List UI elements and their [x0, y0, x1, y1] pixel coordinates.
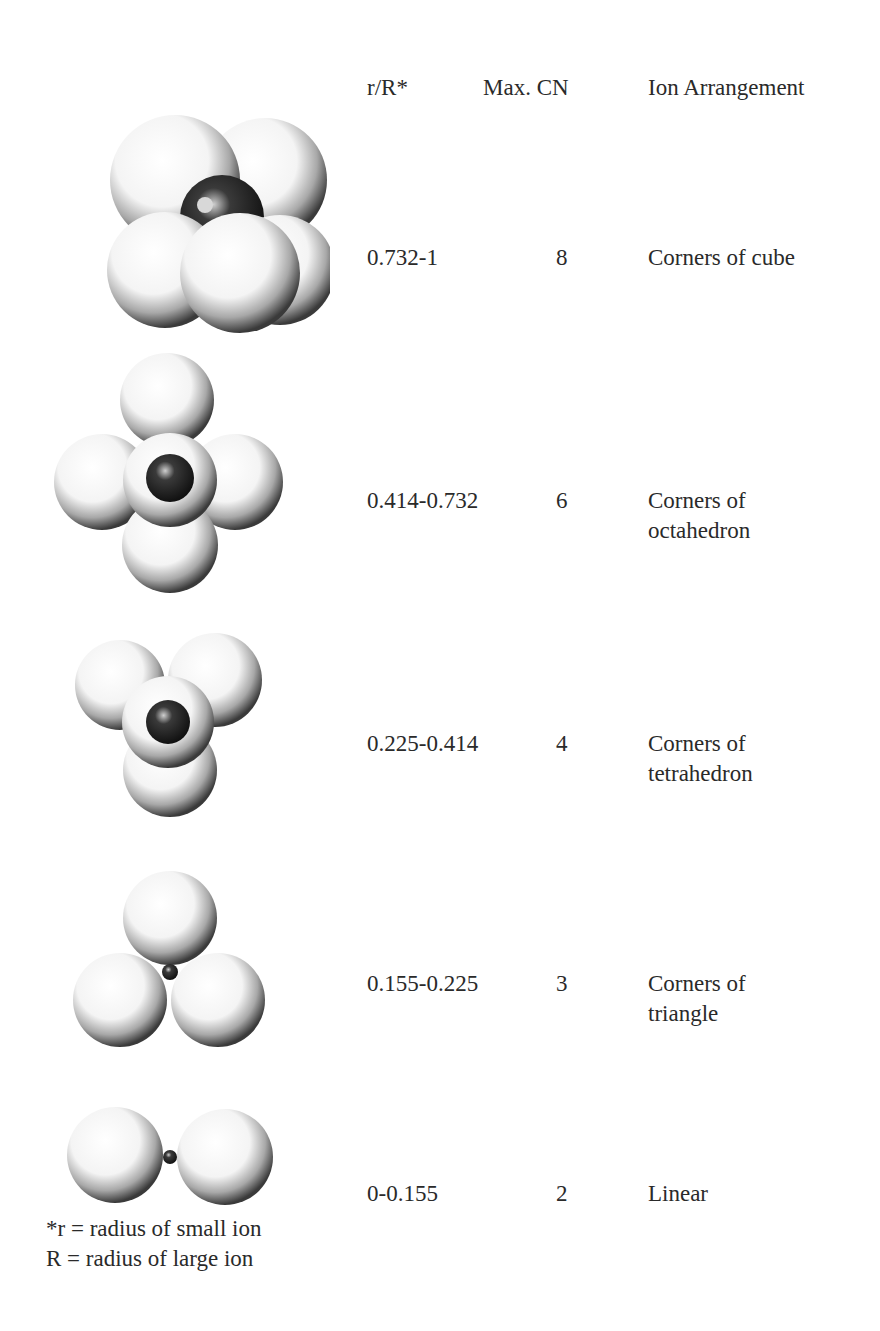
row-4-arrangement-line2: triangle	[648, 999, 718, 1029]
row-3-ratio: 0.225-0.414	[367, 729, 478, 759]
row-2-cn: 6	[556, 486, 568, 516]
row-3-arrangement-line2: tetrahedron	[648, 759, 753, 789]
header-ratio: r/R*	[367, 73, 408, 103]
tetrahedral-coordination-figure	[70, 625, 270, 825]
row-1-cn: 8	[556, 243, 568, 273]
header-ion-arrangement: Ion Arrangement	[648, 73, 804, 103]
linear-coordination-figure	[60, 1100, 285, 1210]
small-ion	[163, 1150, 177, 1164]
row-4-arrangement-line1: Corners of	[648, 969, 746, 999]
row-5-arrangement: Linear	[648, 1179, 708, 1209]
footnote-large-radius: R = radius of large ion	[46, 1244, 253, 1274]
row-2-arrangement-line1: Corners of	[648, 486, 746, 516]
small-ion	[146, 454, 194, 502]
row-1-arrangement: Corners of cube	[648, 243, 795, 273]
octahedral-coordination-figure	[45, 350, 295, 600]
row-1-ratio: 0.732-1	[367, 243, 438, 273]
small-ion	[162, 964, 178, 980]
row-3-cn: 4	[556, 729, 568, 759]
small-ion	[146, 700, 190, 744]
row-4-cn: 3	[556, 969, 568, 999]
row-4-ratio: 0.155-0.225	[367, 969, 478, 999]
footnote-small-radius: *r = radius of small ion	[46, 1214, 261, 1244]
row-3-arrangement-line1: Corners of	[648, 729, 746, 759]
row-5-ratio: 0-0.155	[367, 1179, 438, 1209]
row-2-ratio: 0.414-0.732	[367, 486, 478, 516]
header-max-cn: Max. CN	[483, 73, 569, 103]
triangular-coordination-figure	[70, 860, 280, 1055]
cubic-coordination-figure	[80, 105, 330, 335]
row-2-arrangement-line2: octahedron	[648, 516, 750, 546]
row-5-cn: 2	[556, 1179, 568, 1209]
